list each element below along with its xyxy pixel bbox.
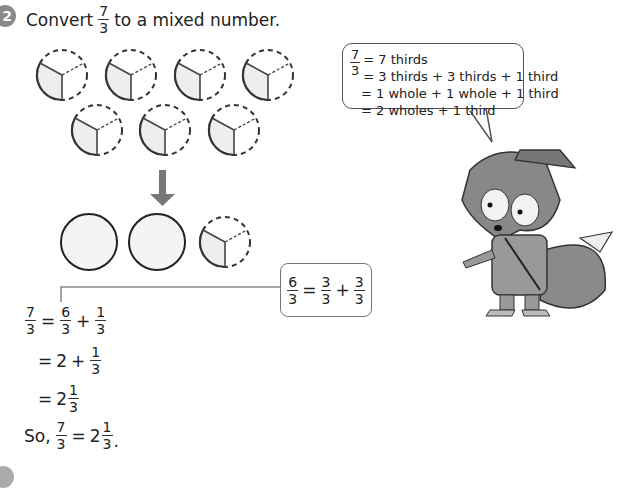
den: 3 [351, 63, 359, 77]
connector-line [61, 287, 280, 302]
frac: 33 [321, 275, 332, 306]
period: . [114, 431, 119, 451]
fox-character-icon [462, 150, 612, 316]
plus: + [71, 351, 85, 371]
bubble-line: = 7 thirds [363, 51, 558, 68]
num: 1 [90, 345, 101, 361]
bubble-line: = 3 thirds + 3 thirds + 1 third [363, 68, 558, 85]
den: 3 [96, 321, 105, 336]
frac: 33 [354, 275, 365, 306]
whole: 2 [56, 389, 67, 409]
den: 3 [26, 321, 35, 336]
equals: = [72, 426, 86, 446]
frac: 63 [287, 275, 298, 306]
den: 3 [57, 436, 66, 451]
num: 7 [56, 420, 67, 436]
den: 3 [103, 436, 112, 451]
bubble-line: = 1 whole + 1 whole + 1 third [349, 85, 517, 102]
speech-bubble: 73 = 7 thirds = 3 thirds + 3 thirds + 1 … [342, 43, 524, 109]
working-line-1: 73 = 63 + 13 [24, 305, 107, 336]
frac: 73 [25, 305, 36, 336]
result-circles [61, 214, 250, 270]
num: 7 [350, 48, 360, 63]
frac: 13 [95, 305, 106, 336]
frac: 13 [68, 383, 79, 414]
frac: 63 [60, 305, 71, 336]
den: 3 [91, 361, 100, 376]
plus: + [76, 311, 90, 331]
den: 3 [61, 321, 70, 336]
num: 3 [321, 275, 332, 291]
plus: + [335, 280, 349, 300]
hint-box: 63 = 33 + 33 [280, 263, 372, 317]
num: 6 [60, 305, 71, 321]
equals: = [41, 311, 55, 331]
working-line-3: = 2 13 [38, 383, 80, 414]
bubble-fraction: 73 [350, 48, 360, 77]
num: 3 [354, 275, 365, 291]
num: 7 [25, 305, 36, 321]
whole: 2 [90, 426, 101, 446]
equals: = [38, 351, 52, 371]
equals: = [302, 280, 316, 300]
frac: 73 [56, 420, 67, 451]
num: 6 [287, 275, 298, 291]
equals: = [38, 389, 52, 409]
num: 1 [95, 305, 106, 321]
num: 1 [102, 420, 113, 436]
bubble-line: = 2 wholes + 1 third [349, 102, 517, 119]
down-arrow-icon [150, 170, 175, 206]
thirds-row-2 [72, 105, 259, 155]
num: 1 [68, 383, 79, 399]
den: 3 [288, 291, 297, 306]
den: 3 [69, 399, 78, 414]
working-line-2: = 2 + 13 [38, 345, 102, 376]
so-label: So, [24, 426, 51, 446]
den: 3 [355, 291, 364, 306]
frac: 13 [90, 345, 101, 376]
thirds-row-1 [37, 50, 293, 100]
den: 3 [322, 291, 331, 306]
frac: 13 [102, 420, 113, 451]
whole: 2 [56, 351, 67, 371]
working-line-4: So, 73 = 2 13 . [24, 420, 119, 451]
